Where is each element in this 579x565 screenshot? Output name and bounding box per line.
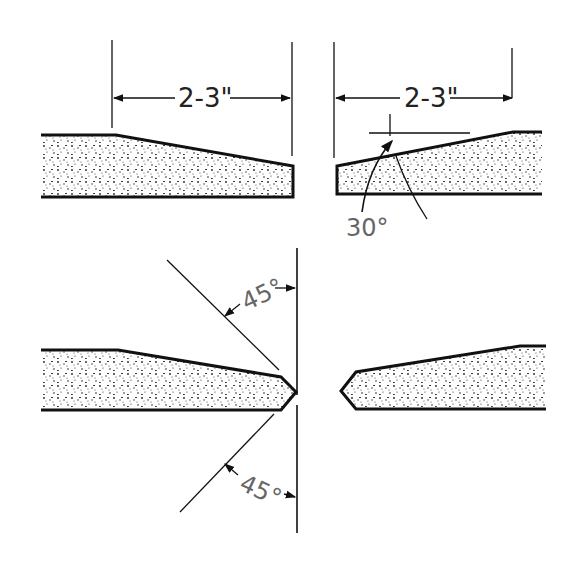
bottom-assembly: 45° 45°	[41, 248, 546, 533]
dimension-label: 2-3"	[178, 83, 232, 113]
top-left-piece: 2-3"	[41, 40, 293, 197]
upper-angle-arrow-left	[225, 304, 240, 316]
bevel-diagram: 2-3" 2-3" 30° 45° 45°	[0, 0, 579, 565]
top-right-piece: 2-3" 30°	[334, 42, 542, 242]
right-pointed-stock	[341, 346, 546, 409]
dimension-label: 2-3"	[404, 83, 458, 113]
upper-angle-label: 45°	[237, 273, 287, 316]
angle-label: 30°	[346, 214, 389, 242]
lower-angle-label: 45°	[235, 469, 285, 512]
upper-45-line	[167, 260, 279, 370]
lower-angle-arrow-left	[225, 464, 238, 475]
lower-angle-arrow-right	[284, 494, 295, 497]
